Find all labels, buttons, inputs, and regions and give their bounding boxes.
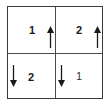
arrow-up-icon <box>93 26 102 48</box>
cell-top-right: 2 <box>56 7 103 53</box>
cell-bottom-right: 1 <box>56 54 103 100</box>
arrow-down-icon <box>57 65 66 87</box>
cell-label: 1 <box>76 71 82 82</box>
cell-label: 2 <box>28 72 34 83</box>
cell-top-left: 1 <box>8 7 55 53</box>
arrow-down-icon <box>9 65 18 87</box>
cell-label: 1 <box>29 25 35 36</box>
cell-bottom-left: 2 <box>8 54 55 100</box>
cell-label: 2 <box>76 25 82 36</box>
quadrant-grid: 1 2 2 <box>7 6 103 99</box>
arrow-up-icon <box>46 26 55 48</box>
